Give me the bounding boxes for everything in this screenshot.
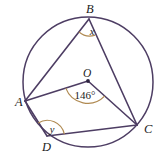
vertex-label-B: B	[86, 2, 94, 16]
geometry-figure: A B C D O 146° x y	[0, 0, 167, 159]
vertex-label-C: C	[144, 122, 153, 136]
segment-OC	[88, 81, 137, 125]
vertex-label-A: A	[14, 95, 23, 109]
vertex-label-D: D	[41, 140, 51, 154]
segment-BC	[89, 19, 137, 125]
centre-point-dot	[86, 79, 90, 83]
circle-geometry-diagram: A B C D O 146° x y	[0, 0, 167, 159]
angle-label-y: y	[49, 124, 55, 135]
angle-label-x: x	[89, 26, 95, 37]
centre-label-O: O	[83, 67, 92, 79]
segment-AD	[25, 101, 47, 136]
angle-label-146: 146°	[75, 89, 96, 101]
